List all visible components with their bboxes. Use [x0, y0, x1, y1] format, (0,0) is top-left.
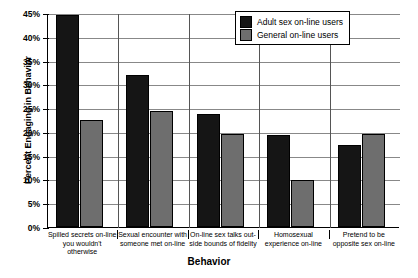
bar — [126, 75, 149, 227]
x-axis-title: Behavior — [0, 256, 418, 267]
category-label-line: On-line sex talks out- — [188, 231, 258, 240]
category-label-line: opposite sex on-line — [329, 240, 399, 249]
legend: Adult sex on-line users General on-line … — [235, 11, 350, 45]
bar-chart: Percent Engaging in Behavior 45%40%35%30… — [0, 0, 418, 278]
y-axis-tick-label: 45% — [6, 10, 40, 19]
group-separator — [118, 14, 119, 228]
bar — [56, 15, 79, 227]
legend-swatch-icon — [240, 16, 252, 28]
category-label-line: side bounds of fidelity — [188, 240, 258, 249]
bar-group — [330, 13, 400, 227]
bar — [150, 111, 173, 228]
bar-group — [48, 13, 118, 227]
category-label: Pretend to beopposite sex on-line — [329, 231, 399, 248]
category-label-line: experience on-line — [258, 240, 328, 249]
group-separator — [259, 14, 260, 228]
y-axis-tick-label: 30% — [6, 81, 40, 90]
legend-item-label: General on-line users — [257, 30, 338, 40]
bar — [197, 114, 220, 227]
category-label: Homosexualexperience on-line — [258, 231, 328, 248]
group-separator — [189, 14, 190, 228]
y-axis-tick-label: 40% — [6, 34, 40, 43]
bar — [267, 135, 290, 227]
y-axis-tick-label: 20% — [6, 129, 40, 138]
y-axis-tick-label: 35% — [6, 58, 40, 67]
y-axis-tick-label: 10% — [6, 176, 40, 185]
group-separator — [330, 14, 331, 228]
bar — [362, 134, 385, 227]
y-axis-tick-label: 25% — [6, 105, 40, 114]
category-label-line: Spilled secrets on-line — [47, 231, 117, 240]
legend-item-label: Adult sex on-line users — [257, 17, 343, 27]
bar-group — [189, 13, 259, 227]
category-label-line: Pretend to be — [329, 231, 399, 240]
plot-area — [47, 14, 399, 228]
legend-swatch-icon — [240, 29, 252, 41]
bar-group — [118, 13, 188, 227]
category-label: On-line sex talks out-side bounds of fid… — [188, 231, 258, 248]
bar — [291, 180, 314, 227]
y-axis-tick-label: 15% — [6, 153, 40, 162]
legend-item: Adult sex on-line users — [240, 15, 343, 28]
bar — [338, 145, 361, 227]
bar — [80, 120, 103, 227]
category-label-line: someone met on-line — [117, 240, 187, 249]
y-axis-tick — [43, 228, 49, 229]
category-label-line: you wouldn't otherwise — [47, 240, 117, 257]
category-label-line: Homosexual — [258, 231, 328, 240]
y-axis-tick-label: 5% — [6, 200, 40, 209]
category-label: Spilled secrets on-lineyou wouldn't othe… — [47, 231, 117, 257]
legend-item: General on-line users — [240, 28, 343, 41]
bar — [221, 134, 244, 227]
y-axis-tick-label: 0% — [6, 224, 40, 233]
bar-group — [259, 13, 329, 227]
category-label-line: Sexual encounter with — [117, 231, 187, 240]
category-label: Sexual encounter withsomeone met on-line — [117, 231, 187, 248]
